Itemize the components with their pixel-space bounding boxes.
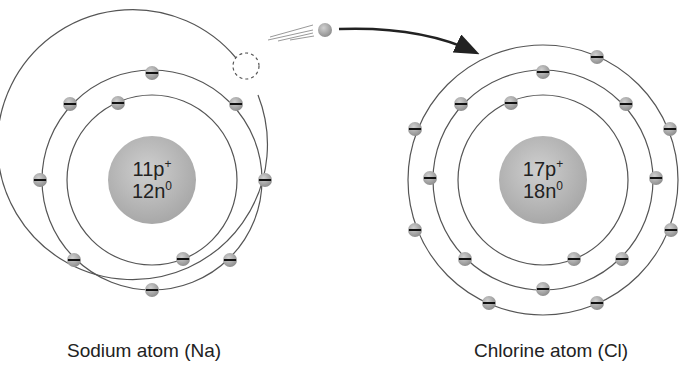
sodium-atom: 11p+ 12n0 xyxy=(0,10,272,297)
moving-electron-icon xyxy=(318,23,332,37)
electron-transfer-diagram: 11p+ 12n0 17p+ 18n0 xyxy=(0,0,689,381)
sodium-label: Sodium atom (Na) xyxy=(67,340,221,362)
chlorine-atom: 17p+ 18n0 xyxy=(408,45,678,315)
transfer-arrow-icon xyxy=(339,29,475,52)
chlorine-label: Chlorine atom (Cl) xyxy=(474,340,628,362)
lost-electron-placeholder xyxy=(233,53,259,79)
electron-transfer xyxy=(268,23,475,52)
motion-lines xyxy=(268,25,314,41)
